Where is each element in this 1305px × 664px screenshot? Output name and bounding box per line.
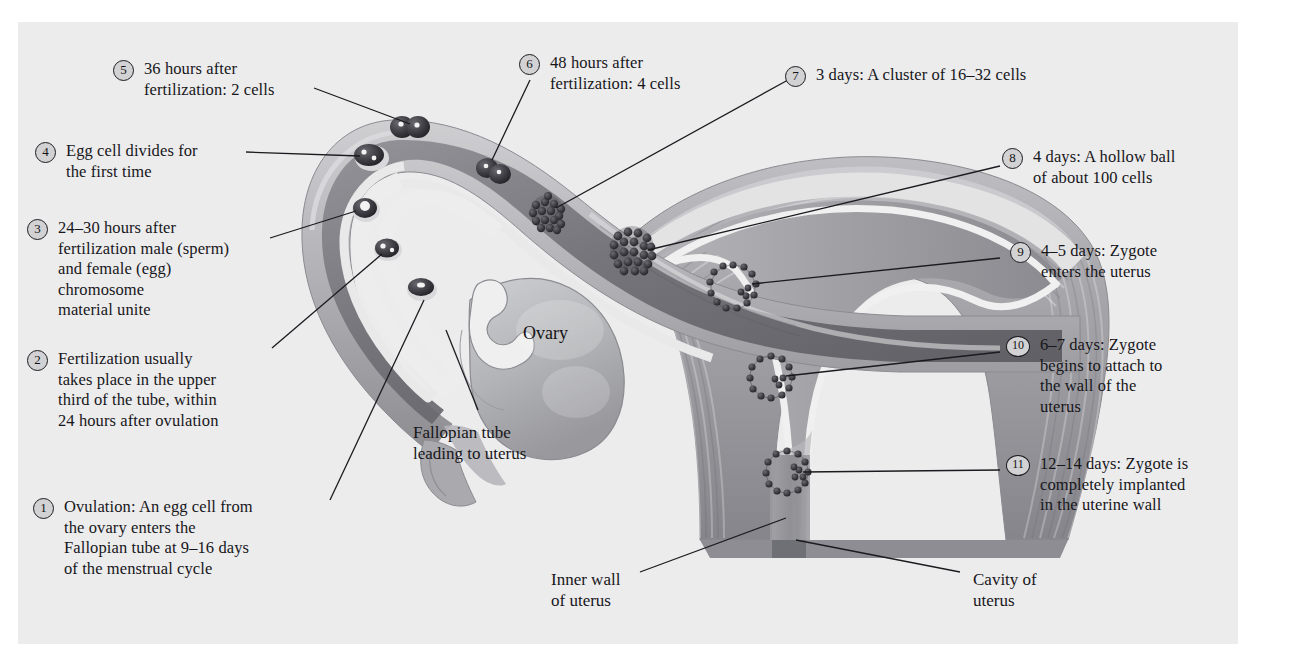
step-3-line-5: material unite — [58, 300, 229, 321]
step-10-line-2: begins to attach to — [1040, 356, 1162, 377]
step-7-line-1: 3 days: A cluster of 16–32 cells — [816, 65, 1026, 86]
step-9-line-1: 4–5 days: Zygote — [1041, 241, 1157, 262]
step-label-2: Fertilization usually takes place in the… — [58, 349, 219, 431]
step-1-line-2: the ovary enters the — [64, 518, 253, 539]
step-5-line-2: fertilization: 2 cells — [144, 80, 275, 101]
step-2-line-4: 24 hours after ovulation — [58, 411, 219, 432]
step-label-11: 12–14 days: Zygote is completely implant… — [1040, 454, 1188, 516]
step-10-line-3: the wall of the — [1040, 376, 1162, 397]
step-11-line-3: in the uterine wall — [1040, 495, 1188, 516]
step-10-line-4: uterus — [1040, 397, 1162, 418]
step-11-line-1: 12–14 days: Zygote is — [1040, 454, 1188, 475]
step-label-3: 24–30 hours after fertilization male (sp… — [58, 218, 229, 321]
step-1-line-1: Ovulation: An egg cell from — [64, 497, 253, 518]
step-label-7: 3 days: A cluster of 16–32 cells — [816, 65, 1026, 86]
fallopian-tube-label-line-2: leading to uterus — [413, 443, 526, 464]
inner-wall-label: Inner wall of uterus — [551, 569, 620, 611]
step-3-line-2: fertilization male (sperm) — [58, 239, 229, 260]
step-marker-4: 4 — [35, 142, 56, 163]
step-2-line-1: Fertilization usually — [58, 349, 219, 370]
step-4-line-2: the first time — [66, 162, 198, 183]
stage-1-egg — [407, 278, 437, 301]
step-marker-3: 3 — [27, 219, 48, 240]
step-marker-9: 9 — [1010, 242, 1031, 263]
stage-3-pronuclei — [352, 198, 380, 222]
step-label-10: 6–7 days: Zygote begins to attach to the… — [1040, 335, 1162, 417]
step-1-line-4: of the menstrual cycle — [64, 559, 253, 580]
step-4-line-1: Egg cell divides for — [66, 141, 198, 162]
step-label-9: 4–5 days: Zygote enters the uterus — [1041, 241, 1157, 282]
step-marker-11: 11 — [1006, 455, 1030, 476]
step-label-5: 36 hours after fertilization: 2 cells — [144, 59, 275, 100]
step-marker-8: 8 — [1002, 148, 1023, 169]
cavity-label-line-2: uterus — [973, 590, 1037, 611]
step-label-1: Ovulation: An egg cell from the ovary en… — [64, 497, 253, 579]
step-1-line-3: Fallopian tube at 9–16 days — [64, 538, 253, 559]
step-marker-7: 7 — [785, 66, 806, 87]
step-marker-6: 6 — [519, 54, 540, 75]
step-6-line-2: fertilization: 4 cells — [550, 74, 681, 95]
step-3-line-1: 24–30 hours after — [58, 218, 229, 239]
step-8-line-2: of about 100 cells — [1033, 168, 1175, 189]
cavity-label-line-1: Cavity of — [973, 569, 1037, 590]
step-3-line-3: and female (egg) — [58, 259, 229, 280]
fallopian-tube-label-line-1: Fallopian tube — [413, 422, 526, 443]
step-10-line-1: 6–7 days: Zygote — [1040, 335, 1162, 356]
step-label-8: 4 days: A hollow ball of about 100 cells — [1033, 147, 1175, 188]
step-11-line-2: completely implanted — [1040, 475, 1188, 496]
step-2-line-3: third of the tube, within — [58, 390, 219, 411]
fallopian-tube-label: Fallopian tube leading to uterus — [413, 422, 526, 464]
step-6-line-1: 48 hours after — [550, 53, 681, 74]
step-9-line-2: enters the uterus — [1041, 262, 1157, 283]
figure-root: 5 36 hours after fertilization: 2 cells … — [0, 0, 1305, 664]
step-marker-10: 10 — [1006, 336, 1030, 357]
cavity-label: Cavity of uterus — [973, 569, 1037, 611]
inner-wall-label-line-2: of uterus — [551, 590, 620, 611]
step-label-6: 48 hours after fertilization: 4 cells — [550, 53, 681, 94]
step-5-line-1: 36 hours after — [144, 59, 275, 80]
step-3-line-4: chromosome — [58, 280, 229, 301]
inner-wall-label-line-1: Inner wall — [551, 569, 620, 590]
ovary-label: Ovary — [523, 323, 568, 344]
step-8-line-1: 4 days: A hollow ball — [1033, 147, 1175, 168]
step-2-line-2: takes place in the upper — [58, 370, 219, 391]
step-marker-1: 1 — [33, 498, 54, 519]
step-marker-2: 2 — [27, 350, 48, 371]
step-label-4: Egg cell divides for the first time — [66, 141, 198, 182]
step-marker-5: 5 — [113, 60, 134, 81]
